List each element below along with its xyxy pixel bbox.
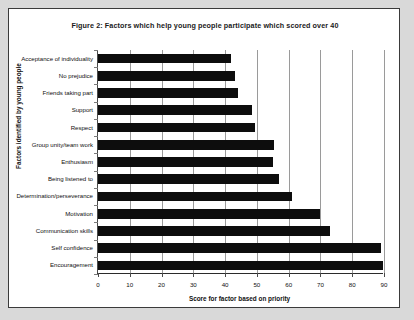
y-axis-category-label: Friends taking part — [43, 90, 93, 96]
bar — [98, 88, 238, 98]
y-axis-tick — [94, 119, 98, 120]
y-axis-tick — [94, 50, 98, 51]
x-axis-tick-label: 80 — [349, 281, 356, 288]
x-axis-tick — [225, 273, 226, 277]
y-axis-category-label: Enthusiasm — [61, 159, 93, 165]
x-axis-tick-label: 90 — [381, 281, 388, 288]
x-axis-title: Score for factor based on priority — [97, 295, 382, 302]
y-axis-tick — [94, 188, 98, 189]
gridline — [384, 50, 385, 273]
y-axis-category-label: Motivation — [65, 211, 93, 217]
bar — [98, 243, 381, 253]
x-axis-tick — [289, 273, 290, 277]
figure-frame: Figure 2: Factors which help young peopl… — [8, 8, 400, 308]
x-axis-tick — [384, 273, 385, 277]
x-axis-tick-label: 0 — [96, 281, 99, 288]
y-axis-tick — [94, 240, 98, 241]
x-axis-tick-label: 40 — [222, 281, 229, 288]
y-axis-tick — [94, 205, 98, 206]
y-axis-category-label: Respect — [71, 125, 93, 131]
bar-row: Being listened to — [98, 174, 383, 184]
bar-row: No prejudice — [98, 71, 383, 81]
y-axis-category-label: Group unity/team work — [32, 142, 93, 148]
bar — [98, 261, 383, 271]
x-axis-tick — [193, 273, 194, 277]
bar-row: Respect — [98, 123, 383, 133]
bar-row: Support — [98, 105, 383, 115]
y-axis-category-label: No prejudice — [59, 73, 93, 79]
bar — [98, 192, 292, 202]
y-axis-tick — [94, 136, 98, 137]
x-axis-tick-label: 60 — [285, 281, 292, 288]
bar — [98, 157, 273, 167]
y-axis-tick — [94, 102, 98, 103]
bar-row: Acceptance of individuality — [98, 54, 383, 64]
bar — [98, 123, 255, 133]
bar-row: Motivation — [98, 209, 383, 219]
x-axis-tick — [320, 273, 321, 277]
bar — [98, 71, 235, 81]
y-axis-tick — [94, 274, 98, 275]
x-axis-tick-label: 50 — [253, 281, 260, 288]
x-axis-tick — [130, 273, 131, 277]
x-axis-tick-label: 20 — [158, 281, 165, 288]
bar-row: Determination/perseverance — [98, 192, 383, 202]
y-axis-category-label: Encouragement — [50, 262, 93, 268]
y-axis-category-label: Support — [72, 107, 93, 113]
bar — [98, 226, 330, 236]
bar-row: Encouragement — [98, 261, 383, 271]
bar — [98, 54, 231, 64]
page-background: Figure 2: Factors which help young peopl… — [0, 0, 414, 320]
x-axis-tick — [162, 273, 163, 277]
y-axis-category-label: Communication skills — [36, 228, 93, 234]
bar-row: Enthusiasm — [98, 157, 383, 167]
bar — [98, 105, 252, 115]
y-axis-category-label: Being listened to — [48, 176, 93, 182]
y-axis-category-label: Determination/perseverance — [16, 193, 93, 199]
y-axis-tick — [94, 67, 98, 68]
y-axis-tick — [94, 153, 98, 154]
x-axis-tick-label: 70 — [317, 281, 324, 288]
y-axis-tick — [94, 171, 98, 172]
plot-area: 0102030405060708090Acceptance of individ… — [97, 50, 383, 274]
x-axis-tick-label: 10 — [126, 281, 133, 288]
bar-row: Communication skills — [98, 226, 383, 236]
y-axis-tick — [94, 222, 98, 223]
x-axis-tick — [98, 273, 99, 277]
y-axis-category-label: Acceptance of individuality — [21, 56, 93, 62]
bar-row: Friends taking part — [98, 88, 383, 98]
y-axis-category-label: Self confidence — [51, 245, 93, 251]
bar — [98, 209, 320, 219]
y-axis-title: Factors identified by young people — [15, 63, 22, 169]
bar-row: Self confidence — [98, 243, 383, 253]
y-axis-tick — [94, 84, 98, 85]
bar — [98, 140, 274, 150]
bar — [98, 174, 279, 184]
x-axis-tick — [257, 273, 258, 277]
x-axis-tick-label: 30 — [190, 281, 197, 288]
y-axis-tick — [94, 257, 98, 258]
bar-row: Group unity/team work — [98, 140, 383, 150]
x-axis-tick — [352, 273, 353, 277]
chart-title: Figure 2: Factors which help young peopl… — [9, 21, 401, 30]
